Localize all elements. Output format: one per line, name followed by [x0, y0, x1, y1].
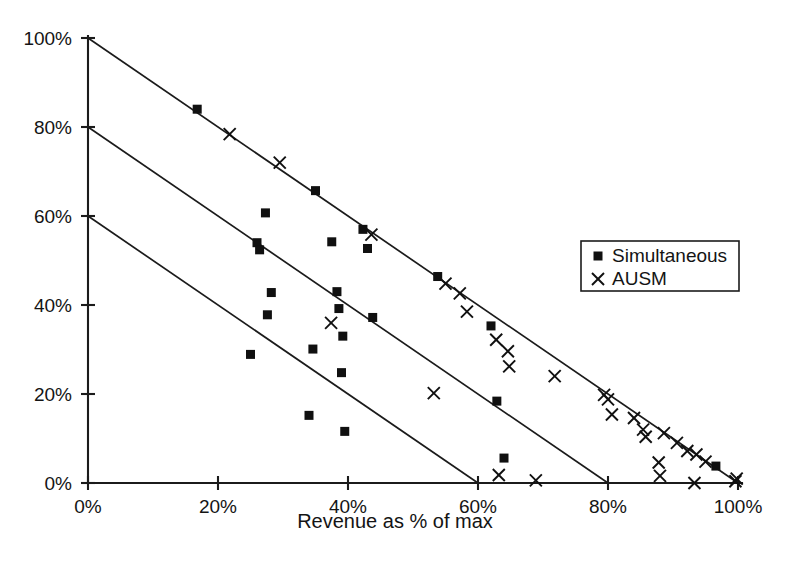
- point-simultaneous-17: [363, 244, 372, 253]
- point-simultaneous-21: [492, 397, 501, 406]
- point-ausm-11: [503, 360, 515, 372]
- scatter-plot-svg: 0%20%40%60%80%100%0%20%40%60%80%100% Sim…: [0, 0, 790, 575]
- point-ausm-5: [440, 278, 452, 290]
- y-tick-label-100: 100%: [23, 28, 72, 49]
- point-simultaneous-8: [308, 345, 317, 354]
- chart-legend[interactable]: SimultaneousAUSM: [581, 241, 739, 291]
- point-simultaneous-3: [255, 245, 264, 254]
- filled-square-marker-icon: [594, 252, 603, 261]
- point-ausm-1: [274, 157, 286, 169]
- point-simultaneous-4: [261, 208, 270, 217]
- legend-label-simultaneous: Simultaneous: [612, 245, 727, 266]
- point-ausm-21: [654, 470, 666, 482]
- point-simultaneous-11: [332, 287, 341, 296]
- point-simultaneous-18: [368, 313, 377, 322]
- point-simultaneous-23: [711, 462, 720, 471]
- y-tick-label-20: 20%: [34, 384, 72, 405]
- point-simultaneous-15: [340, 427, 349, 436]
- point-ausm-12: [530, 474, 542, 486]
- point-ausm-2: [325, 317, 337, 329]
- point-simultaneous-20: [487, 321, 496, 330]
- point-ausm-4: [428, 387, 440, 399]
- point-ausm-27: [700, 456, 712, 468]
- x-tick-label-0: 0%: [74, 496, 102, 517]
- point-ausm-8: [490, 334, 502, 346]
- legend-label-ausm: AUSM: [612, 268, 667, 289]
- point-simultaneous-1: [246, 350, 255, 359]
- point-ausm-16: [606, 408, 618, 420]
- reference-line-sum-60: [88, 216, 478, 483]
- point-ausm-9: [493, 469, 505, 481]
- x-tick-label-100: 100%: [714, 496, 763, 517]
- point-simultaneous-14: [338, 332, 347, 341]
- point-ausm-20: [653, 457, 665, 469]
- point-ausm-10: [502, 345, 514, 357]
- point-simultaneous-12: [334, 304, 343, 313]
- point-simultaneous-10: [327, 237, 336, 246]
- point-ausm-0: [224, 128, 236, 140]
- x-axis-title: Revenue as % of max: [297, 510, 493, 532]
- point-ausm-13: [549, 370, 561, 382]
- point-simultaneous-13: [337, 368, 346, 377]
- point-ausm-6: [454, 287, 466, 299]
- point-simultaneous-5: [263, 310, 272, 319]
- x-tick-label-20: 20%: [199, 496, 237, 517]
- point-simultaneous-9: [311, 186, 320, 195]
- point-ausm-7: [461, 306, 473, 318]
- x-tick-label-80: 80%: [589, 496, 627, 517]
- point-ausm-23: [671, 437, 683, 449]
- y-tick-label-60: 60%: [34, 206, 72, 227]
- point-simultaneous-7: [305, 411, 314, 420]
- y-tick-label-80: 80%: [34, 117, 72, 138]
- y-tick-label-40: 40%: [34, 295, 72, 316]
- point-ausm-15: [602, 393, 614, 405]
- point-simultaneous-22: [500, 454, 509, 463]
- point-simultaneous-0: [193, 105, 202, 114]
- point-simultaneous-6: [267, 288, 276, 297]
- chart-figure: 0%20%40%60%80%100%0%20%40%60%80%100% Sim…: [0, 0, 790, 575]
- point-ausm-22: [658, 427, 670, 439]
- point-ausm-17: [628, 412, 640, 424]
- y-tick-label-0: 0%: [45, 473, 73, 494]
